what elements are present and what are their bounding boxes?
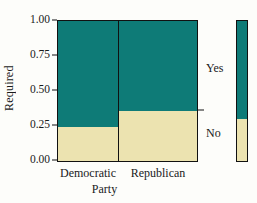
y-tick-label-0-25: 0.25 xyxy=(16,119,50,131)
x-axis-title: Party xyxy=(92,182,117,197)
legend-label-yes: Yes xyxy=(206,61,223,76)
legend-color-bar xyxy=(236,20,248,162)
y-axis-title: Required xyxy=(2,48,16,128)
bar-democratic-segment-no xyxy=(58,127,118,161)
y-tick-label-0-75: 0.75 xyxy=(16,49,50,61)
bar-republican-segment-no xyxy=(119,111,197,161)
legend-swatch-no xyxy=(237,119,247,161)
y-tick-label-0-00: 0.00 xyxy=(16,154,50,166)
legend-label-no: No xyxy=(206,126,221,141)
right-axis-tick-mark xyxy=(198,110,204,111)
mosaic-chart: Required 1.00 0.75 0.50 0.25 0.00 Democr… xyxy=(0,0,257,203)
legend-swatch-yes xyxy=(237,21,247,119)
bar-republican-segment-yes xyxy=(119,21,197,111)
x-tick-label-democratic: Democratic xyxy=(60,166,116,181)
bar-democratic-segment-yes xyxy=(58,21,118,127)
x-axis-title-wrap: Party xyxy=(0,182,257,197)
plot-area xyxy=(57,20,198,162)
y-axis-tick-labels: 1.00 0.75 0.50 0.25 0.00 xyxy=(16,0,50,203)
y-tick-label-1-00: 1.00 xyxy=(16,14,50,26)
bar-republican[interactable] xyxy=(119,21,197,161)
x-tick-label-republican: Republican xyxy=(131,166,186,181)
bar-democratic[interactable] xyxy=(58,21,118,161)
y-tick-label-0-50: 0.50 xyxy=(16,84,50,96)
